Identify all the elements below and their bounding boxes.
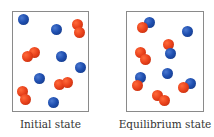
blue-atom-icon [165,48,176,59]
red-atom-icon [140,54,151,65]
blue-atom-icon [51,24,62,35]
blue-atom-icon [56,51,67,62]
red-atom-icon [178,82,189,93]
red-atom-icon [74,27,85,38]
red-atom-icon [132,80,143,91]
red-atom-icon [159,95,170,106]
initial-state-label: Initial state [12,118,89,130]
blue-atom-icon [48,97,59,108]
blue-atom-icon [18,14,29,25]
blue-atom-icon [182,26,193,37]
blue-atom-icon [75,62,86,73]
red-atom-icon [22,51,33,62]
red-atom-icon [62,77,73,88]
red-atom-icon [137,22,148,33]
blue-atom-icon [34,73,45,84]
red-atom-icon [20,94,31,105]
equilibrium-state-label: Equilibrium state [118,118,212,130]
blue-atom-icon [162,68,173,79]
